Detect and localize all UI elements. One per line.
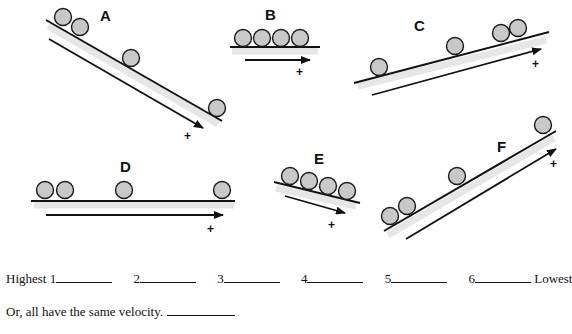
rank-slot-5[interactable]: 5 — [385, 271, 448, 286]
same-velocity-blank[interactable] — [167, 304, 235, 316]
ball — [123, 50, 140, 67]
rank-slot-4[interactable]: 4 — [301, 271, 364, 286]
ball — [273, 30, 290, 47]
diagram-label: B — [265, 6, 276, 23]
highest-label: Highest — [6, 271, 46, 286]
plus-sign: + — [207, 222, 214, 236]
diagram-d: D + — [31, 158, 235, 236]
diagram-label: A — [100, 7, 111, 24]
diagram-label: E — [314, 150, 324, 167]
ball — [371, 59, 388, 76]
ball — [449, 168, 466, 185]
ranking-row: Highest 1 2 3 4 5 6 Lowest — [6, 271, 572, 287]
ball — [399, 198, 416, 215]
ball — [535, 117, 552, 134]
ball — [254, 30, 271, 47]
diagram-e: E + — [274, 150, 360, 232]
diagram-f: F + — [382, 117, 558, 240]
ball — [55, 9, 72, 26]
rank-slot-3[interactable]: 3 — [217, 271, 280, 286]
ball — [214, 182, 231, 199]
lowest-label: Lowest — [534, 271, 572, 286]
same-velocity-label: Or, all have the same velocity. — [6, 304, 163, 319]
plus-sign: + — [296, 65, 303, 79]
plus-sign: + — [328, 218, 335, 232]
ball — [37, 182, 54, 199]
ball — [209, 100, 226, 117]
rank-slot-1[interactable]: 1 — [50, 271, 113, 286]
diagram-a: A + — [46, 7, 226, 143]
plus-sign: + — [184, 129, 191, 143]
ball — [339, 183, 356, 200]
diagram-label: F — [497, 138, 506, 155]
ball — [320, 178, 337, 195]
rank-slot-6[interactable]: 6 — [468, 271, 531, 286]
same-velocity-row: Or, all have the same velocity. — [6, 304, 235, 320]
plus-sign: + — [550, 157, 557, 171]
plus-sign: + — [532, 57, 539, 71]
ball — [235, 30, 252, 47]
diagram-label: C — [414, 17, 425, 34]
rank-slot-2[interactable]: 2 — [133, 271, 196, 286]
ranking-diagrams: A + B + C + D + — [0, 0, 566, 260]
ball — [493, 25, 510, 42]
ball — [57, 182, 74, 199]
ball — [282, 168, 299, 185]
ball — [447, 38, 464, 55]
ball — [116, 182, 133, 199]
diagram-label: D — [120, 158, 131, 175]
ball — [510, 20, 527, 37]
ball — [72, 19, 89, 36]
ball — [292, 30, 309, 47]
ball — [382, 208, 399, 225]
diagram-b: B + — [230, 6, 320, 79]
diagram-c: C + — [354, 17, 549, 95]
ball — [301, 173, 318, 190]
